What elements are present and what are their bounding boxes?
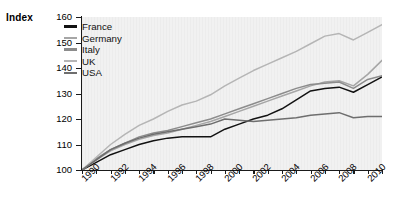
y-tick-label-text: 100 <box>46 165 72 175</box>
y-tick-label-text: 120 <box>46 114 72 124</box>
legend: FranceGermanyItalyUKUSA <box>64 21 122 79</box>
plot-area <box>82 17 382 170</box>
y-axis-title: Index <box>6 12 33 23</box>
series-lines <box>82 17 382 170</box>
legend-item-label: Germany <box>82 33 122 44</box>
y-tick <box>76 17 81 18</box>
legend-swatch-icon <box>64 25 77 27</box>
y-tick <box>76 145 81 146</box>
series-line-germany <box>82 60 382 170</box>
y-tick <box>76 170 81 171</box>
series-line-france <box>82 77 382 170</box>
legend-item-label: USA <box>82 67 102 78</box>
y-tick-label: 110 <box>46 140 72 150</box>
y-tick-label: 130 <box>46 89 72 99</box>
legend-item-label: France <box>82 21 112 32</box>
legend-item-germany[interactable]: Germany <box>64 33 122 44</box>
series-line-italy <box>82 76 382 170</box>
legend-item-usa[interactable]: USA <box>64 67 122 78</box>
legend-swatch-icon <box>64 60 77 62</box>
y-tick-label-text: 110 <box>46 140 72 150</box>
index-line-chart: Index 100110120130140150160 199019921994… <box>0 0 406 209</box>
legend-item-france[interactable]: France <box>64 21 122 32</box>
y-tick <box>76 119 81 120</box>
y-tick <box>76 94 81 95</box>
legend-swatch-icon <box>64 48 77 50</box>
legend-item-label: UK <box>82 56 95 67</box>
series-line-usa <box>82 113 382 170</box>
y-tick-label: 120 <box>46 114 72 124</box>
legend-swatch-icon <box>64 37 77 39</box>
legend-item-label: Italy <box>82 44 100 55</box>
y-tick-label-text: 130 <box>46 89 72 99</box>
legend-item-italy[interactable]: Italy <box>64 44 122 55</box>
legend-item-uk[interactable]: UK <box>64 56 122 67</box>
legend-swatch-icon <box>64 72 77 74</box>
y-tick-label: 100 <box>46 165 72 175</box>
